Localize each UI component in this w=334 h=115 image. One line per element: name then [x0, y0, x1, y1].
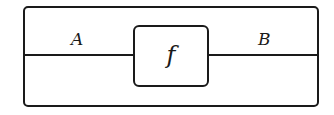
- input-wire: [25, 54, 133, 56]
- output-wire-label: B: [258, 29, 271, 49]
- input-wire-label: A: [71, 29, 83, 49]
- morphism-label: f: [135, 41, 207, 69]
- output-wire: [209, 54, 317, 56]
- morphism-box: f: [133, 25, 209, 87]
